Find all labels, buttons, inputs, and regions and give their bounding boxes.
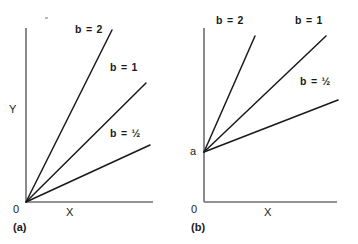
figure-container: b = 2 b = 1 b = ½ Y X 0 (a) b = 2 b = 1 … xyxy=(0,0,358,244)
panel-b-label-b-half: b = ½ xyxy=(300,76,331,87)
panel-a-origin-label: 0 xyxy=(13,204,19,215)
panel-a-line-bhalf xyxy=(26,145,150,202)
panel-a-caption: (a) xyxy=(13,222,26,233)
panel-a-x-axis-label: X xyxy=(66,207,73,218)
panel-a-y-axis-label: Y xyxy=(9,104,16,115)
figure-canvas xyxy=(0,0,358,244)
panel-a-group xyxy=(26,28,153,202)
panel-b-intercept-label: a xyxy=(190,146,196,157)
panel-a-label-b-half: b = ½ xyxy=(110,128,141,139)
panel-b-caption: (b) xyxy=(191,222,205,233)
panel-b-group xyxy=(204,28,338,202)
panel-a-line-b1 xyxy=(26,83,146,202)
panel-b-origin-label: 0 xyxy=(191,204,197,215)
panel-b-line-b1 xyxy=(204,36,326,152)
panel-b-label-b1: b = 1 xyxy=(295,15,323,26)
panel-a-label-b1: b = 1 xyxy=(110,62,138,73)
panel-b-x-axis-label: X xyxy=(264,207,271,218)
panel-a-line-b2 xyxy=(26,30,112,202)
panel-b-label-b2: b = 2 xyxy=(216,15,244,26)
print-speck xyxy=(45,17,48,19)
panel-a-label-b2: b = 2 xyxy=(75,24,103,35)
